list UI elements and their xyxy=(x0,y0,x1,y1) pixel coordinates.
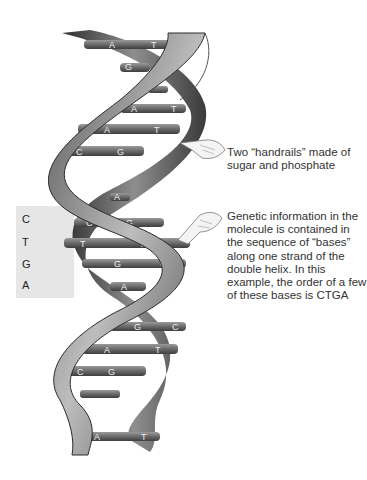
svg-text:T: T xyxy=(171,104,177,114)
svg-text:G: G xyxy=(108,367,115,377)
svg-text:A: A xyxy=(131,104,137,114)
svg-text:A: A xyxy=(94,432,100,442)
pointing-hand-icon xyxy=(178,212,222,244)
svg-text:T: T xyxy=(141,432,147,442)
svg-text:G: G xyxy=(114,259,121,269)
svg-text:A: A xyxy=(104,125,110,135)
svg-text:G: G xyxy=(125,62,132,72)
svg-text:A: A xyxy=(109,40,115,50)
svg-text:A: A xyxy=(121,282,127,292)
handrails-callout: Two “handrails” made of sugar and phosph… xyxy=(227,146,367,172)
svg-text:T: T xyxy=(80,239,86,249)
svg-text:T: T xyxy=(151,40,157,50)
svg-text:A: A xyxy=(114,192,120,202)
svg-text:T: T xyxy=(155,345,161,355)
svg-text:A: A xyxy=(104,345,110,355)
svg-text:G: G xyxy=(134,322,141,332)
svg-text:C: C xyxy=(77,367,84,377)
svg-text:C: C xyxy=(172,322,179,332)
svg-text:G: G xyxy=(117,147,124,157)
svg-text:T: T xyxy=(154,125,160,135)
genetic-information-callout: Genetic information in the molecule is c… xyxy=(227,210,367,302)
dna-diagram: C T G A xyxy=(0,0,367,480)
